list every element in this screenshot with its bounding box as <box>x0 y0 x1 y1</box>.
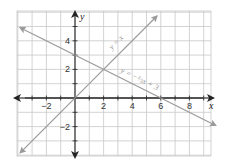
x-tick-label: 2 <box>101 101 106 111</box>
line-label-y-equals-x: y = x <box>106 33 125 52</box>
grid <box>17 11 211 156</box>
x-tick-label: 8 <box>187 101 192 111</box>
axes <box>15 12 213 157</box>
labels: −22468−224xyy = xy = −½x + 3 <box>41 11 214 132</box>
x-tick-label: −2 <box>41 101 51 111</box>
x-tick-label: 6 <box>158 101 163 111</box>
y-tick-label: 4 <box>65 36 70 46</box>
x-tick-label: 4 <box>130 101 135 111</box>
y-tick-label: −2 <box>60 122 70 132</box>
y-tick-label: 2 <box>65 64 70 74</box>
coordinate-plane: −22468−224xyy = xy = −½x + 3 <box>0 0 225 167</box>
x-axis-label: x <box>208 100 214 111</box>
y-axis-label: y <box>79 11 85 22</box>
line-y-equals-x <box>21 84 89 152</box>
